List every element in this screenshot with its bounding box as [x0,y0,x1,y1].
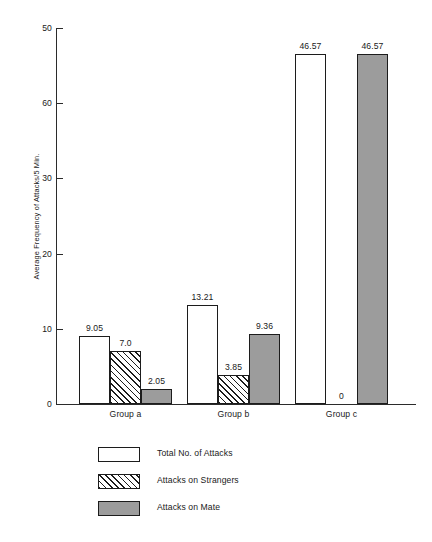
legend-swatch [98,501,140,516]
bar-value-label: 9.05 [86,323,103,333]
bar-slot: 9.36 [249,28,280,404]
x-axis-category-label: Group c [326,409,357,419]
y-axis-tick [57,404,63,405]
plot-area: 9.057.02.0513.213.859.3646.57046.57 [56,28,416,404]
bar-value-label: 7.0 [119,338,131,348]
x-axis-line [56,404,416,405]
bar-value-label: 3.85 [225,362,242,372]
bar [249,334,280,404]
y-axis-tick-label: 50 [8,23,52,33]
bar-value-label: 46.57 [361,41,383,51]
y-axis-tick-label: 20 [8,249,52,259]
legend-swatch [98,447,140,462]
bar-slot: 9.05 [79,28,110,404]
bar-slot: 0 [326,28,357,404]
legend-label: Attacks on Strangers [157,475,239,485]
bar-chart: Average Frequency of Attacks/5 Min. 5060… [0,0,432,542]
legend-swatch [98,474,140,489]
bar-slot: 7.0 [110,28,141,404]
y-axis-tick-label: 10 [8,324,52,334]
legend-label: Total No. of Attacks [157,448,233,458]
bar-slot: 46.57 [295,28,326,404]
y-axis-title: Average Frequency of Attacks/5 Min. [32,102,41,332]
x-axis-category-label: Group b [218,409,250,419]
bar-slot: 13.21 [187,28,218,404]
x-axis-category-label: Group a [110,409,142,419]
bar [357,54,388,404]
y-axis-tick-label: 0 [8,399,52,409]
bar-value-label: 13.21 [191,292,213,302]
bar-value-label: 46.57 [299,41,321,51]
y-axis-tick-label: 30 [8,173,52,183]
legend-label: Attacks on Mate [157,502,220,512]
bar [295,54,326,404]
bar [110,351,141,404]
bar-value-label: 2.05 [148,376,165,386]
bar [218,375,249,404]
bar-value-label: 0 [339,391,344,401]
bar-slot: 3.85 [218,28,249,404]
bar [79,336,110,404]
bar [187,305,218,404]
y-axis-tick-label: 60 [8,98,52,108]
bar-slot: 2.05 [141,28,172,404]
bar [141,389,172,404]
bar-value-label: 9.36 [256,321,273,331]
bar-slot: 46.57 [357,28,388,404]
